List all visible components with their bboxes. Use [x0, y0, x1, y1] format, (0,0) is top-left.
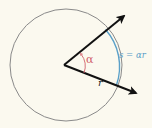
arc-segment: [106, 30, 120, 86]
arc-length-diagram: α r s = αr: [0, 0, 152, 128]
arc-length-label: s = αr: [119, 51, 146, 60]
angle-mark-arrow: [81, 54, 85, 73]
angle-label: α: [86, 54, 93, 65]
radius-label: r: [98, 78, 103, 88]
diagram-canvas: [0, 0, 152, 128]
upper-ray-arrow: [64, 16, 124, 65]
